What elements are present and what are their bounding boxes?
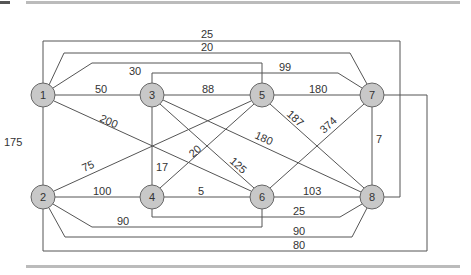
graph-diagram: 50 88 180 175 100 5 103 7 200 75 17 20 1… xyxy=(0,0,471,275)
node-1: 1 xyxy=(31,83,55,107)
weight-1-8: 25 xyxy=(201,28,213,40)
weight-3-7: 99 xyxy=(279,61,291,73)
svg-text:5: 5 xyxy=(259,89,265,101)
svg-text:6: 6 xyxy=(259,191,265,203)
weight-2-8: 90 xyxy=(293,225,305,237)
node-5: 5 xyxy=(250,83,274,107)
svg-text:3: 3 xyxy=(149,89,155,101)
node-3: 3 xyxy=(140,83,164,107)
weight-4-8: 25 xyxy=(293,205,305,217)
edge-weights: 50 88 180 175 100 5 103 7 200 75 17 20 1… xyxy=(4,28,382,251)
edge-1-8 xyxy=(43,41,400,197)
weight-4-6: 5 xyxy=(198,185,204,197)
weight-1-3: 50 xyxy=(95,83,107,95)
weight-6-7: 374 xyxy=(317,114,339,135)
weight-3-5: 88 xyxy=(202,83,214,95)
weight-2-6: 90 xyxy=(117,215,129,227)
node-7: 7 xyxy=(360,83,384,107)
node-6: 6 xyxy=(250,185,274,209)
node-4: 4 xyxy=(140,185,164,209)
weight-4-5: 20 xyxy=(186,142,203,159)
weight-3-8: 180 xyxy=(253,129,275,147)
weight-2-4: 100 xyxy=(93,185,111,197)
svg-text:1: 1 xyxy=(40,89,46,101)
weight-6-8: 103 xyxy=(303,185,321,197)
weight-3-6: 125 xyxy=(228,155,250,176)
svg-text:8: 8 xyxy=(369,191,375,203)
svg-text:4: 4 xyxy=(149,191,155,203)
weight-1-6: 200 xyxy=(98,112,120,130)
weight-1-5: 30 xyxy=(129,65,141,77)
edges xyxy=(43,41,427,251)
edge-2-8 xyxy=(49,208,367,237)
weight-7-8: 7 xyxy=(376,133,382,145)
weight-1-7: 20 xyxy=(201,41,213,53)
weight-2-5: 75 xyxy=(80,158,96,174)
weight-3-4: 17 xyxy=(156,161,168,173)
node-2: 2 xyxy=(31,185,55,209)
weight-2-7: 80 xyxy=(293,239,305,251)
weight-5-7: 180 xyxy=(309,83,327,95)
weight-1-2: 175 xyxy=(4,136,22,148)
weight-5-8: 187 xyxy=(285,108,307,129)
svg-text:7: 7 xyxy=(369,89,375,101)
node-8: 8 xyxy=(360,185,384,209)
svg-text:2: 2 xyxy=(40,191,46,203)
edge-1-7 xyxy=(49,53,367,85)
